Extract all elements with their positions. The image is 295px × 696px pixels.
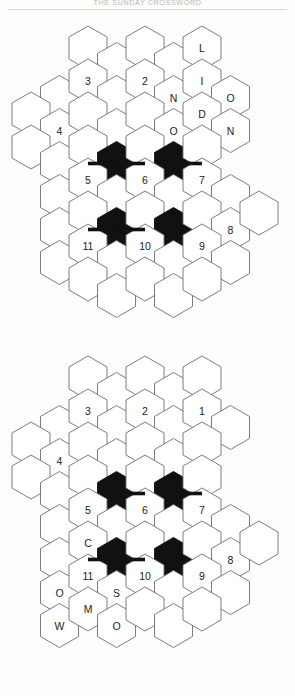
hex-letter: O xyxy=(169,125,177,137)
hex-clue-number: 3 xyxy=(85,75,91,87)
hex-clue-number: 8 xyxy=(228,554,234,566)
hex-letter: M xyxy=(84,603,93,615)
hex-letter: L xyxy=(199,42,205,54)
hex-clue-number: 10 xyxy=(139,240,151,252)
hex-clue-number: 7 xyxy=(199,504,205,516)
hex-clue-number: 2 xyxy=(142,405,148,417)
hex-letter: O xyxy=(55,587,63,599)
hex-letter: N xyxy=(170,92,178,104)
hex-clue-number: 11 xyxy=(83,240,94,252)
hex-clue-number: 6 xyxy=(142,504,148,516)
hex-clue-number: 4 xyxy=(57,455,63,467)
hex-letter: N xyxy=(227,125,235,137)
hex-letter: O xyxy=(226,92,234,104)
grid-top: L32NIO4ODN567811109 xyxy=(12,26,278,318)
hex-clue-number: 3 xyxy=(85,405,91,417)
hex-clue-number: 10 xyxy=(139,570,151,582)
hex-letter: W xyxy=(55,620,65,632)
puzzle-page: THE SUNDAY CROSSWORD L32NIO4ODN567811109… xyxy=(0,0,295,696)
hex-clue-number: 5 xyxy=(85,504,91,516)
hex-puzzle-grids: L32NIO4ODN5678111093214567C8O11S109WMO xyxy=(0,0,295,696)
hex-letter: O xyxy=(112,620,120,632)
hex-letter: I xyxy=(201,75,204,87)
hex-clue-number: 2 xyxy=(142,75,148,87)
hex-clue-number: 1 xyxy=(199,405,205,417)
hex-clue-number: 5 xyxy=(85,174,91,186)
hex-letter: S xyxy=(113,587,120,599)
hex-clue-number: 11 xyxy=(83,570,94,582)
hex-letter: C xyxy=(84,537,92,549)
hex-clue-number: 9 xyxy=(199,570,205,582)
hex-clue-number: 4 xyxy=(57,125,63,137)
hex-clue-number: 9 xyxy=(199,240,205,252)
hex-clue-number: 6 xyxy=(142,174,148,186)
hex-clue-number: 8 xyxy=(228,224,234,236)
grid-bottom: 3214567C8O11S109WMO xyxy=(12,356,278,648)
hex-clue-number: 7 xyxy=(199,174,205,186)
hex-letter: D xyxy=(198,108,206,120)
